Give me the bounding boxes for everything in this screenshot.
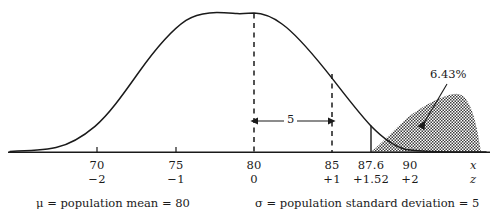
z-tick-label-neg1: −1 <box>156 172 196 186</box>
caption-population-sd: σ = population standard deviation = 5 <box>255 196 479 210</box>
span-distance-label: 5 <box>284 112 297 126</box>
z-tick-label-0: 0 <box>234 172 274 186</box>
normal-distribution-figure: 6.43% 5 70 75 80 85 87.6 90 −2 −1 0 +1 +… <box>0 0 500 217</box>
x-tick-label-70: 70 <box>77 158 117 172</box>
tail-area-percent-label: 6.43% <box>430 67 467 81</box>
caption-population-mean: μ = population mean = 80 <box>36 196 190 210</box>
x-tick-label-80: 80 <box>234 158 274 172</box>
x-tick-label-90: 90 <box>390 158 430 172</box>
z-axis-name-label: z <box>470 172 476 186</box>
x-tick-label-85: 85 <box>312 158 352 172</box>
shaded-tail-region <box>371 86 483 152</box>
z-tick-label-pos2: +2 <box>390 172 430 186</box>
x-tick-label-87-6: 87.6 <box>349 158 393 172</box>
z-tick-label-pos1-52: +1.52 <box>347 172 395 186</box>
x-tick-label-75: 75 <box>156 158 196 172</box>
x-axis-name-label: x <box>470 158 477 172</box>
z-tick-label-pos1: +1 <box>312 172 352 186</box>
z-tick-label-neg2: −2 <box>77 172 117 186</box>
